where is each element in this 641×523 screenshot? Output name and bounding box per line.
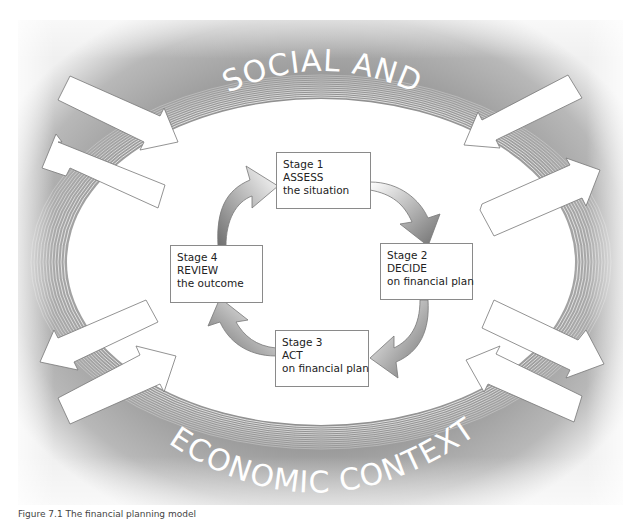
figure-caption: Figure 7.1 The financial planning model xyxy=(18,509,196,519)
stage-2-action: DECIDE xyxy=(387,262,466,275)
stage-2-box: Stage 2 DECIDE on financial plan xyxy=(380,243,473,300)
stage-2-detail: on financial plan xyxy=(387,275,466,288)
stage-1-action: ASSESS xyxy=(283,171,364,184)
stage-2-label: Stage 2 xyxy=(387,249,466,262)
stage-3-box: Stage 3 ACT on financial plan xyxy=(275,330,369,387)
stage-4-box: Stage 4 REVIEW the outcome xyxy=(170,245,263,303)
stage-3-label: Stage 3 xyxy=(282,336,362,349)
stage-4-detail: the outcome xyxy=(177,277,256,290)
stage-4-action: REVIEW xyxy=(177,264,256,277)
stage-4-label: Stage 4 xyxy=(177,251,256,264)
stage-3-action: ACT xyxy=(282,349,362,362)
stage-1-label: Stage 1 xyxy=(283,158,364,171)
stage-1-box: Stage 1 ASSESS the situation xyxy=(276,152,371,209)
stage-1-detail: the situation xyxy=(283,184,364,197)
financial-planning-diagram: SOCIAL AND ECONOMIC CONTEXT xyxy=(0,0,641,523)
diagram-canvas: SOCIAL AND ECONOMIC CONTEXT xyxy=(0,0,641,523)
stage-3-detail: on financial plan xyxy=(282,362,362,375)
